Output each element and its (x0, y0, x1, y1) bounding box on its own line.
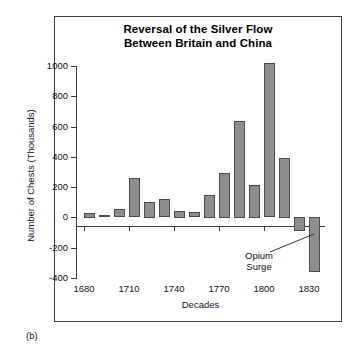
y-tick (71, 248, 77, 249)
bar (99, 215, 110, 217)
bar (114, 209, 125, 217)
bar (249, 185, 260, 218)
y-tick (71, 96, 77, 97)
y-tick (71, 157, 77, 158)
x-tick-label: 1770 (197, 283, 241, 294)
bar (174, 211, 185, 218)
chart-title-line-1: Reversal of the Silver Flow (54, 23, 342, 37)
bar (219, 173, 230, 218)
y-tick (71, 127, 77, 128)
bar (279, 158, 290, 218)
chart-title-line-2: Between Britain and China (54, 37, 342, 51)
x-axis-title: Decades (76, 299, 325, 310)
bar (309, 217, 320, 272)
y-axis-title: Number of Chests (Thousands) (25, 101, 36, 251)
y-tick-label-wrap: 1000 (24, 61, 68, 71)
x-tick (129, 226, 130, 231)
annotation-line-1: Opium (245, 250, 273, 261)
bar (144, 202, 155, 218)
x-axis-line (76, 226, 325, 227)
x-tick-label: 1680 (62, 283, 106, 294)
y-tick (71, 187, 77, 188)
y-tick (71, 278, 77, 279)
x-tick (264, 226, 265, 231)
bar (159, 199, 170, 217)
x-tick-label: 1830 (287, 283, 331, 294)
chart-frame (54, 16, 342, 322)
x-tick-label: 1800 (242, 283, 286, 294)
x-tick (84, 226, 85, 231)
y-tick-label-wrap: -400 (24, 273, 68, 283)
annotation-opium-surge: Opium Surge Opium Surge (228, 250, 290, 272)
annotation-line-2: Surge (246, 261, 271, 272)
bar (189, 212, 200, 217)
panel-label: (b) (26, 330, 38, 341)
y-tick (71, 217, 77, 218)
bar (264, 63, 275, 217)
y-tick-label: -400 (28, 273, 68, 282)
y-tick (71, 66, 77, 67)
x-tick-label: 1740 (152, 283, 196, 294)
y-tick-label-wrap: 800 (24, 91, 68, 101)
x-tick (219, 226, 220, 231)
y-tick-label: 1000 (28, 61, 68, 70)
y-tick-label: 800 (28, 91, 68, 100)
x-tick (174, 226, 175, 231)
bar (294, 217, 305, 231)
figure-root: Reversal of the Silver Flow Between Brit… (0, 0, 360, 352)
bar (234, 121, 245, 218)
bar (129, 178, 140, 217)
x-tick-label: 1710 (107, 283, 151, 294)
bar (204, 195, 215, 218)
bar (84, 213, 95, 218)
chart-title: Reversal of the Silver Flow Between Brit… (54, 23, 342, 50)
